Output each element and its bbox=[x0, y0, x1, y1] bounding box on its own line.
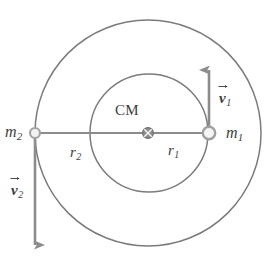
mass-2-subscript: 2 bbox=[17, 130, 23, 142]
mass-2-label: m2 bbox=[5, 124, 22, 142]
body-m1-marker bbox=[203, 127, 215, 139]
radius-1-symbol: r bbox=[168, 142, 174, 158]
center-of-mass-label: CM bbox=[115, 103, 139, 118]
radius-1-label: r1 bbox=[168, 143, 179, 160]
radius-1-subscript: 1 bbox=[174, 149, 179, 160]
radius-2-symbol: r bbox=[70, 144, 76, 160]
mass-1-label: m1 bbox=[226, 125, 243, 143]
velocity-2-symbol: v bbox=[11, 183, 18, 198]
mass-1-subscript: 1 bbox=[238, 131, 244, 143]
vector-arrow-icon bbox=[218, 83, 228, 89]
velocity-1-label: v 1 bbox=[219, 91, 231, 108]
mass-2-symbol: m bbox=[5, 123, 17, 140]
velocity-2-subscript: 2 bbox=[18, 189, 23, 200]
radius-2-subscript: 2 bbox=[76, 151, 81, 162]
radius-2-label: r2 bbox=[70, 145, 81, 162]
vector-arrow-icon bbox=[10, 175, 20, 181]
velocity-2-label: v 2 bbox=[11, 183, 23, 200]
physics-diagram-figure: m2 m1 r2 r1 CM v 1 v 2 bbox=[0, 0, 270, 258]
mass-1-symbol: m bbox=[226, 124, 238, 141]
velocity-1-symbol: v bbox=[219, 91, 226, 106]
velocity-1-subscript: 1 bbox=[226, 97, 231, 108]
center-of-mass-marker bbox=[143, 128, 154, 139]
body-m2-marker bbox=[30, 128, 40, 138]
